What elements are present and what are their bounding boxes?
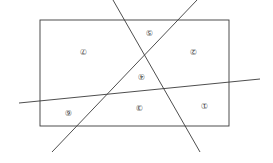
region-label-1: ① xyxy=(201,101,208,110)
svg-text:②: ② xyxy=(190,47,197,56)
svg-text:⑦: ⑦ xyxy=(80,47,87,56)
svg-text:①: ① xyxy=(201,101,208,110)
svg-text:④: ④ xyxy=(138,72,145,81)
region-label-6: ⑥ xyxy=(65,108,72,117)
region-label-2: ② xyxy=(190,47,197,56)
region-label-3: ③ xyxy=(136,103,143,112)
svg-text:⑥: ⑥ xyxy=(65,108,72,117)
region-label-7: ⑦ xyxy=(80,47,87,56)
line-a xyxy=(113,0,200,152)
svg-text:⑤: ⑤ xyxy=(146,28,153,37)
region-label-4: ④ xyxy=(138,72,145,81)
line-c xyxy=(19,79,260,103)
svg-text:③: ③ xyxy=(136,103,143,112)
line-b xyxy=(52,0,197,152)
diagram-canvas: ⑦ ⑤ ② ④ ③ ① ⑥ xyxy=(0,0,273,163)
region-label-5: ⑤ xyxy=(146,28,153,37)
